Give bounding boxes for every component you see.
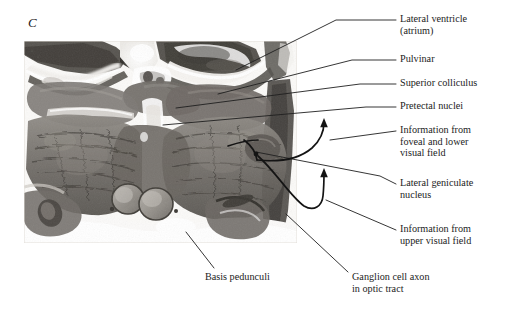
label-lateral-geniculate-nucleus: Lateral geniculate nucleus [400,177,473,200]
arrowhead-foveal-lower [320,118,328,127]
label-ganglion-cell-axon: Ganglion cell axon in optic tract [352,271,430,294]
label-superior-colliculus: Superior colliculus [400,77,477,89]
label-pulvinar: Pulvinar [400,53,435,65]
panel-letter: C [28,16,37,29]
leader-line-information-foveal [330,131,396,140]
leader-line-information-upper [326,200,396,230]
label-information-upper-visual-field: Information from upper visual field [400,223,471,246]
arrowhead-upper-field [320,168,328,177]
figure-root: C [0,0,506,315]
brain-section-image [24,41,297,243]
label-pretectal-nuclei: Pretectal nuclei [400,100,463,112]
label-basis-pedunculi: Basis pedunculi [205,271,270,283]
label-lateral-ventricle: Lateral ventricle (atrium) [400,13,467,36]
label-information-foveal-lower: Information from foveal and lower visual… [400,124,471,159]
brain-section-photograph [24,41,297,243]
